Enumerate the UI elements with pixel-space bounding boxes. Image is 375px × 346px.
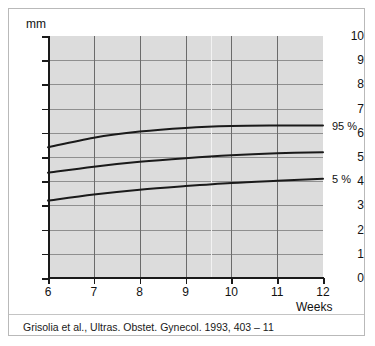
y-axis-tick-label: 10: [334, 30, 364, 42]
x-axis-tick: [48, 278, 50, 284]
x-axis-tick-label: 9: [173, 286, 199, 298]
x-axis-tick: [140, 278, 142, 284]
x-axis-tick-label: 6: [35, 286, 61, 298]
x-axis-title: Weeks: [296, 301, 332, 313]
y-axis-tick-label: 3: [334, 199, 364, 211]
x-axis-tick: [277, 278, 279, 284]
x-axis-tick: [323, 278, 325, 284]
x-axis-tick: [186, 278, 188, 284]
curve-50-percentile: [48, 152, 323, 173]
y-axis-title: mm: [26, 18, 46, 30]
y-axis-tick-label: 7: [334, 103, 364, 115]
percentile-curves: [48, 36, 323, 278]
x-axis-tick-label: 11: [264, 286, 290, 298]
x-axis-tick-label: 8: [127, 286, 153, 298]
x-axis-tick: [231, 278, 233, 284]
series-label: 5 %: [332, 174, 351, 185]
chart-region: mm 012345678910 6789101112 95 %5 % Weeks: [9, 9, 364, 302]
series-label: 95 %: [332, 121, 357, 132]
figure-container: mm 012345678910 6789101112 95 %5 % Weeks…: [8, 8, 365, 336]
y-axis-tick-label: 2: [334, 224, 364, 236]
x-axis-tick-label: 10: [218, 286, 244, 298]
y-axis-tick-label: 1: [334, 248, 364, 260]
y-axis-tick-label: 5: [334, 151, 364, 163]
y-axis-tick-label: 9: [334, 54, 364, 66]
y-axis-tick-label: 8: [334, 78, 364, 90]
figure-caption: Grisolia et al., Ultras. Obstet. Gynecol…: [23, 321, 274, 333]
x-axis-tick-label: 12: [310, 286, 336, 298]
x-axis-tick-label: 7: [81, 286, 107, 298]
curve-5-percentile: [48, 179, 323, 201]
y-axis-tick-label: 0: [334, 272, 364, 284]
curve-95-percentile: [48, 126, 323, 148]
caption-divider: [9, 314, 364, 315]
x-axis-tick: [94, 278, 96, 284]
